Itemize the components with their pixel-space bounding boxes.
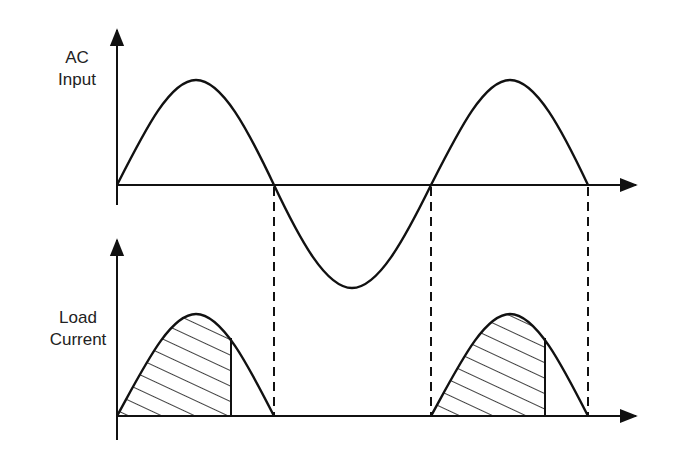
ac-input-label-line2: Input (42, 69, 112, 91)
load-current-label: Load Current (38, 307, 118, 351)
ac-input-label-line1: AC (42, 47, 112, 69)
ac-input-label: AC Input (42, 47, 112, 91)
load-current-label-line2: Current (38, 329, 118, 351)
load-current-label-line1: Load (38, 307, 118, 329)
hatched-conduction-regions (117, 314, 588, 416)
ac-input-axes (117, 30, 636, 205)
